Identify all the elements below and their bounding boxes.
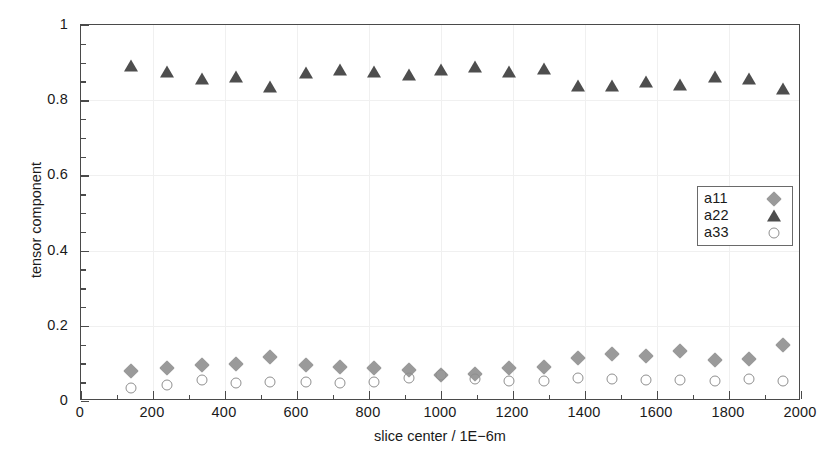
x-tick-major [801,391,802,399]
x-tick-minor [117,395,118,400]
x-tick-major [81,391,82,399]
data-point-a33 [335,377,346,388]
data-point-a11 [401,362,417,378]
data-point-a33 [162,380,173,391]
gridline-vertical [585,25,586,399]
data-point-a33 [301,377,312,388]
y-tick-major [81,251,89,252]
data-point-a22 [299,67,313,79]
y-tick-label: 0.8 [0,91,68,107]
data-point-a11 [228,356,244,372]
gridline-vertical [657,25,658,399]
y-tick-minor [81,81,86,82]
x-tick-label: 1000 [423,404,456,420]
x-tick-minor [477,395,478,400]
y-tick-major [81,326,89,327]
data-point-a33 [403,372,414,383]
data-point-a22 [502,66,516,78]
data-point-a22 [708,71,722,83]
x-tick-minor [549,395,550,400]
y-tick-minor [81,63,86,64]
data-point-a11 [194,357,210,373]
x-tick-label: 2000 [783,404,816,420]
data-point-a33 [265,377,276,388]
y-tick-major [81,175,89,176]
data-point-a33 [675,375,686,386]
gridline-horizontal [81,100,799,101]
y-tick-label: 1 [0,16,68,32]
gridline-vertical [297,25,298,399]
data-point-a33 [743,374,754,385]
data-point-a11 [160,360,176,376]
data-point-a11 [638,348,654,364]
y-tick-minor [81,138,86,139]
data-point-a22 [229,70,243,82]
legend[interactable]: a11a22a33 [697,186,793,246]
y-tick-label: 0 [0,392,68,408]
y-tick-minor [81,345,86,346]
legend-item-a11[interactable]: a11 [704,190,787,207]
x-tick-label: 200 [140,404,165,420]
data-point-a22 [263,80,277,92]
data-point-a11 [536,359,552,375]
data-point-a22 [742,72,756,84]
legend-item-a33[interactable]: a33 [704,224,787,241]
data-point-a11 [262,349,278,365]
data-point-a11 [775,338,791,354]
data-point-a33 [196,374,207,385]
x-tick-minor [693,395,694,400]
y-tick-minor [81,194,86,195]
data-point-a11 [124,363,140,379]
x-tick-major [369,391,370,399]
x-tick-minor [765,395,766,400]
x-tick-minor [621,395,622,400]
y-tick-minor [81,269,86,270]
y-tick-minor [81,44,86,45]
x-tick-label: 800 [356,404,381,420]
x-tick-minor [189,395,190,400]
data-point-a22 [124,60,138,72]
y-tick-minor [81,382,86,383]
x-tick-major [153,391,154,399]
data-point-a33 [230,377,241,388]
data-point-a11 [673,344,689,360]
data-point-a33 [607,374,618,385]
data-point-a22 [673,79,687,91]
data-point-a11 [298,357,314,373]
x-axis-label: slice center / 1E−6m [80,428,800,444]
gridline-vertical [441,25,442,399]
gridline-vertical [369,25,370,399]
x-tick-minor [333,395,334,400]
legend-label-a11: a11 [704,191,728,206]
plot-area [80,24,800,400]
y-tick-minor [81,232,86,233]
y-tick-minor [81,213,86,214]
data-point-a22 [605,79,619,91]
x-tick-label: 1800 [711,404,744,420]
data-point-a22 [333,64,347,76]
y-tick-major [81,401,89,402]
data-point-a22 [195,72,209,84]
data-point-a33 [470,374,481,385]
gridline-vertical [225,25,226,399]
data-point-a11 [502,360,518,376]
x-tick-label: 600 [284,404,309,420]
legend-label-a22: a22 [704,208,729,223]
data-point-a33 [709,376,720,387]
gridline-horizontal [81,326,799,327]
data-point-a22 [537,63,551,75]
legend-item-a22[interactable]: a22 [704,207,787,224]
data-point-a33 [641,375,652,386]
x-tick-label: 1200 [495,404,528,420]
data-point-a11 [604,346,620,362]
data-point-a22 [402,69,416,81]
x-tick-major [513,391,514,399]
x-tick-major [225,391,226,399]
data-point-a33 [538,376,549,387]
y-tick-minor [81,288,86,289]
x-tick-label: 1600 [639,404,672,420]
x-tick-label: 400 [212,404,237,420]
legend-marker-diamond-icon [761,191,787,206]
x-tick-major [297,391,298,399]
data-point-a33 [369,377,380,388]
